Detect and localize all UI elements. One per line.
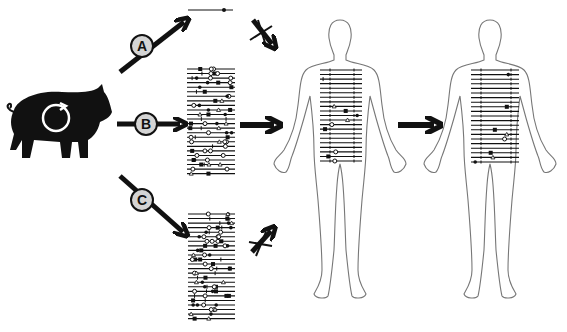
variant-panel-b — [187, 67, 235, 176]
blocked-arrow-c — [249, 231, 272, 256]
variant-panel-a — [188, 8, 233, 12]
diagram-svg — [0, 0, 567, 332]
variant-panel-c — [188, 212, 235, 321]
pathway-label-a: A — [130, 34, 154, 58]
human-figure-1 — [274, 20, 406, 298]
diagram-canvas: A B C — [0, 0, 567, 332]
pig-icon — [8, 84, 112, 158]
blocked-arrow-a — [250, 20, 272, 46]
pathway-label-c: C — [130, 188, 154, 212]
pathway-label-b: B — [134, 112, 158, 136]
human-figure-2 — [424, 20, 556, 298]
